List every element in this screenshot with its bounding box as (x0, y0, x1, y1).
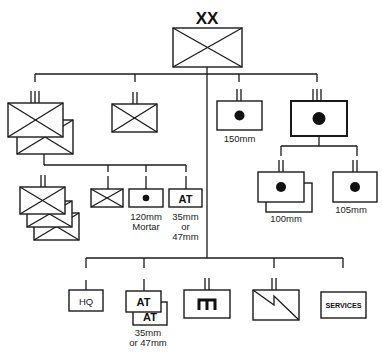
independent-battalion-unit (112, 92, 157, 132)
services-symbol: SERVICES (325, 301, 361, 310)
unit-caption: 47mm (172, 231, 198, 242)
division-unit: XX (173, 9, 242, 67)
antitank-symbol: AT (179, 193, 193, 205)
signals-battalion-unit (253, 278, 299, 320)
svg-text:AT: AT (143, 311, 157, 323)
unit-caption: Mortar (132, 221, 159, 232)
unit-caption: 105mm (335, 204, 367, 215)
artillery-regiment-unit (291, 89, 347, 136)
infantry-company-unit (91, 189, 123, 207)
artillery-battalion-100mm: 100mm (258, 160, 312, 224)
division-echelon-marker: XX (196, 9, 219, 28)
infantry-regiment-unit (8, 91, 73, 154)
antitank-symbol: AT (137, 296, 151, 308)
regiment-battalions-stack (20, 175, 79, 240)
echelon-ii-marker (41, 175, 45, 187)
echelon-ii-marker (205, 278, 209, 290)
artillery-dot-icon (350, 182, 360, 192)
echelon-ii-marker (353, 160, 357, 172)
divisional-antitank-unit: AT AT 35mm or 47mm (126, 291, 167, 348)
artillery-dot-icon (235, 111, 245, 121)
mortar-dot-icon (143, 195, 150, 202)
hq-unit: HQ (69, 290, 103, 311)
artillery-battalion-150mm: 150mm (217, 89, 262, 144)
echelon-ii-marker (237, 89, 241, 101)
echelon-ii-marker (272, 278, 276, 290)
artillery-dot-icon (313, 112, 326, 125)
artillery-dot-icon (276, 182, 286, 192)
unit-caption: 100mm (270, 213, 302, 224)
echelon-ii-marker (279, 160, 283, 172)
antitank-company-unit: AT 35mm or 47mm (169, 189, 202, 242)
order-of-battle-diagram: XX (0, 0, 382, 356)
echelon-ii-marker (133, 92, 137, 104)
services-unit: SERVICES (321, 292, 366, 318)
echelon-iii-marker (313, 89, 321, 101)
unit-caption: or 47mm (129, 337, 167, 348)
mortar-company-unit: 120mm Mortar (129, 189, 163, 232)
echelon-iii-marker (31, 91, 39, 103)
engineer-battalion-unit (184, 278, 230, 318)
unit-caption: 150mm (224, 133, 256, 144)
hq-symbol: HQ (79, 296, 93, 307)
artillery-battalion-105mm: 105mm (333, 160, 377, 215)
